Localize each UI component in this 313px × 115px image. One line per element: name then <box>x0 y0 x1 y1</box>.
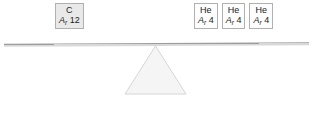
mass-subscript: r <box>65 19 67 26</box>
element-block-carbon: C Ar 12 <box>55 3 84 29</box>
relative-atomic-mass: Ar 12 <box>59 16 80 25</box>
relative-atomic-mass: Ar 4 <box>253 16 269 25</box>
mass-label: A <box>226 15 232 25</box>
mass-subscript: r <box>259 19 261 26</box>
relative-atomic-mass: Ar 4 <box>198 16 214 25</box>
left-pan-blocks: C Ar 12 <box>55 3 84 29</box>
element-symbol: He <box>253 6 269 15</box>
right-pan-blocks: He Ar 4 He Ar 4 He Ar 4 <box>194 3 273 29</box>
element-block-helium-1: He Ar 4 <box>194 3 218 29</box>
mass-subscript: r <box>232 19 234 26</box>
element-block-helium-3: He Ar 4 <box>249 3 273 29</box>
fulcrum-icon <box>124 45 187 95</box>
balance-scale-diagram: C Ar 12 He Ar 4 He Ar 4 He Ar 4 <box>0 0 313 115</box>
relative-atomic-mass: Ar 4 <box>226 16 242 25</box>
element-symbol: He <box>226 6 242 15</box>
left-pan <box>0 0 106 40</box>
fulcrum-triangle <box>124 45 187 95</box>
mass-subscript: r <box>204 19 206 26</box>
element-symbol: C <box>59 6 80 15</box>
mass-value: 4 <box>209 15 214 25</box>
mass-value: 4 <box>264 15 269 25</box>
element-symbol: He <box>198 6 214 15</box>
element-block-helium-2: He Ar 4 <box>222 3 246 29</box>
mass-value: 12 <box>70 15 80 25</box>
mass-value: 4 <box>236 15 241 25</box>
